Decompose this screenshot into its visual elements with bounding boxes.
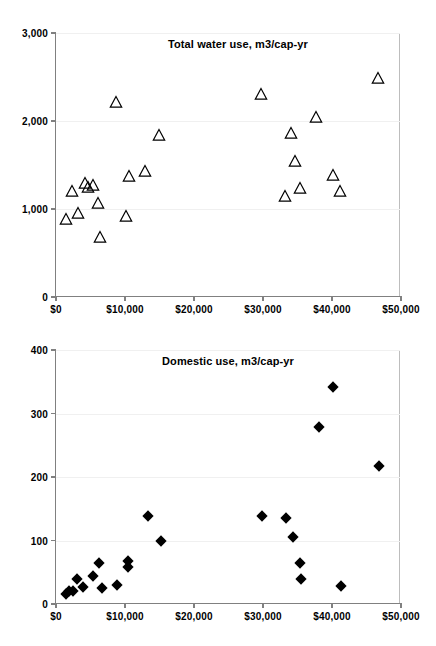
y-gridline [56,33,400,34]
x-axis-tick-label: $50,000 [382,611,420,622]
y-gridline [56,209,400,210]
plot-inner-domestic-use: 0100200300400$0$10,000$20,000$30,000$40,… [56,350,400,603]
plot-inner-total-water-use: 01,0002,0003,000$0$10,000$20,000$30,000$… [56,33,400,296]
data-point-open-triangle [87,179,100,192]
y-gridline [56,541,400,542]
data-point-filled-diamond [96,582,108,594]
data-point-filled-diamond [93,557,105,569]
y-axis-tick-label: 400 [31,345,48,356]
x-axis-tick-label: $10,000 [106,304,144,315]
data-point-open-triangle [152,129,165,142]
y-axis-tick-label: 3,000 [22,28,48,39]
y-axis-tick-label: 200 [31,472,48,483]
x-axis-tick-label: $30,000 [244,304,282,315]
data-point-open-triangle [289,154,302,167]
data-point-open-triangle [92,196,105,209]
y-axis-tick [51,540,56,542]
x-axis-tick-label: $40,000 [313,611,351,622]
x-axis-tick [262,296,264,301]
y-axis-tick [51,476,56,478]
y-axis-tick-label: 100 [31,535,48,546]
data-point-open-triangle [310,111,323,124]
plot-area-domestic-use: 0100200300400$0$10,000$20,000$30,000$40,… [55,350,400,604]
data-point-open-triangle [65,185,78,198]
data-point-open-triangle [254,87,267,100]
y-axis-tick [51,208,56,210]
data-point-filled-diamond [335,580,347,592]
data-point-filled-diamond [256,510,268,522]
data-point-open-triangle [284,127,297,140]
chart-title-total-water-use: Total water use, m3/cap-yr [168,38,308,50]
plot-area-total-water-use: 01,0002,0003,000$0$10,000$20,000$30,000$… [55,33,400,297]
data-point-filled-diamond [87,570,99,582]
chart-total-water-use: 01,0002,0003,000$0$10,000$20,000$30,000$… [0,0,436,323]
x-axis-tick-label: $30,000 [244,611,282,622]
data-point-open-triangle [120,210,133,223]
x-axis-tick [400,296,402,301]
data-point-open-triangle [94,231,107,244]
y-gridline [56,477,400,478]
data-point-open-triangle [279,189,292,202]
data-point-filled-diamond [122,555,134,567]
data-point-open-triangle [371,71,384,84]
x-axis-tick-label: $20,000 [175,611,213,622]
y-axis-tick [51,349,56,351]
data-point-open-triangle [326,168,339,181]
x-axis-tick [262,603,264,608]
data-point-open-triangle [293,181,306,194]
y-axis-tick-label: 2,000 [22,116,48,127]
y-gridline [56,350,400,351]
data-point-filled-diamond [142,510,154,522]
y-axis-tick [51,413,56,415]
x-axis-tick [124,603,126,608]
y-axis-tick-label: 1,000 [22,204,48,215]
x-axis-tick [193,296,195,301]
data-point-filled-diamond [327,381,339,393]
x-axis-tick [331,603,333,608]
x-axis-tick-label: $0 [50,304,62,315]
chart-domestic-use: 0100200300400$0$10,000$20,000$30,000$40,… [0,323,436,646]
data-point-filled-diamond [294,557,306,569]
y-axis-tick-label: 0 [42,292,48,303]
data-point-filled-diamond [295,573,307,585]
x-axis-tick-label: $0 [50,611,62,622]
figure-page: 01,0002,0003,000$0$10,000$20,000$30,000$… [0,0,436,646]
x-axis-tick [193,603,195,608]
y-gridline [56,121,400,122]
x-axis-tick [55,296,57,301]
y-gridline [56,414,400,415]
data-point-open-triangle [123,170,136,183]
y-axis-tick [51,32,56,34]
x-axis-tick [331,296,333,301]
data-point-filled-diamond [373,460,385,472]
x-axis-tick [124,296,126,301]
x-axis-tick [55,603,57,608]
data-point-open-triangle [72,206,85,219]
data-point-filled-diamond [313,421,325,433]
data-point-filled-diamond [287,531,299,543]
data-point-open-triangle [139,165,152,178]
x-axis-tick [400,603,402,608]
x-axis-tick-label: $20,000 [175,304,213,315]
data-point-open-triangle [110,95,123,108]
chart-title-domestic-use: Domestic use, m3/cap-yr [162,355,294,367]
y-axis-tick [51,120,56,122]
y-axis-tick-label: 0 [42,599,48,610]
x-axis-tick-label: $50,000 [382,304,420,315]
x-axis-tick-label: $40,000 [313,304,351,315]
data-point-filled-diamond [155,535,167,547]
data-point-filled-diamond [77,581,89,593]
data-point-open-triangle [333,184,346,197]
x-axis-tick-label: $10,000 [106,611,144,622]
y-axis-tick-label: 300 [31,408,48,419]
data-point-filled-diamond [280,512,292,524]
data-point-filled-diamond [111,579,123,591]
